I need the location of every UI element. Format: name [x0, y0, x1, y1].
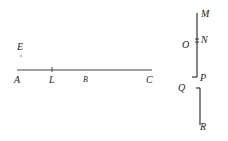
label-a: A [14, 75, 20, 85]
label-e: E [17, 42, 23, 52]
label-o: O [182, 40, 189, 50]
label-r: R [200, 122, 206, 132]
label-l: L [49, 75, 55, 85]
geometry-figure [0, 0, 228, 141]
label-p: P [200, 73, 206, 83]
label-c: C [146, 75, 153, 85]
label-m: M [201, 9, 209, 19]
label-n: N [201, 35, 208, 45]
label-q: Q [178, 83, 185, 93]
point-e [20, 55, 21, 56]
label-b: B [83, 76, 88, 84]
